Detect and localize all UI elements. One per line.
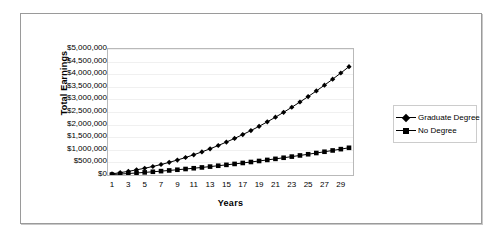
data-point-marker	[224, 139, 229, 144]
data-point-marker	[281, 110, 286, 115]
data-point-marker	[314, 151, 319, 156]
data-point-marker	[142, 170, 147, 175]
data-point-marker	[183, 155, 188, 160]
data-point-marker	[216, 163, 221, 168]
data-point-marker	[224, 163, 229, 168]
data-point-marker	[281, 155, 286, 160]
data-point-marker	[183, 167, 188, 172]
y-tick-label: $3,000,000	[45, 94, 107, 102]
data-point-marker	[330, 148, 335, 153]
series-lines	[108, 49, 353, 175]
y-tick-label: $5,000,000	[45, 44, 107, 52]
data-point-marker	[273, 157, 278, 162]
data-point-marker	[322, 149, 327, 154]
data-point-marker	[265, 119, 270, 124]
data-point-marker	[191, 166, 196, 171]
data-point-marker	[200, 165, 205, 170]
data-point-marker	[191, 152, 196, 157]
data-point-marker	[248, 128, 253, 133]
chart-legend: Graduate DegreeNo Degree	[393, 105, 477, 143]
data-point-marker	[175, 157, 180, 162]
x-axis-title: Years	[107, 198, 354, 208]
data-point-marker	[118, 172, 123, 175]
series-line	[112, 67, 349, 174]
legend-diamond-marker-icon	[396, 112, 416, 123]
data-point-marker	[273, 115, 278, 120]
data-point-marker	[265, 158, 270, 163]
data-point-marker	[207, 146, 212, 151]
data-point-marker	[232, 162, 237, 167]
y-tick-label: $1,000,000	[45, 145, 107, 153]
data-point-marker	[150, 164, 155, 169]
y-tick-label: $0	[45, 170, 107, 178]
data-point-marker	[151, 169, 156, 174]
data-point-marker	[240, 132, 245, 137]
legend-item-label: No Degree	[416, 126, 457, 136]
legend-item-label: Graduate Degree	[416, 113, 480, 123]
data-point-marker	[289, 105, 294, 110]
data-point-marker	[257, 159, 262, 164]
y-tick-label: $500,000	[45, 157, 107, 165]
data-point-marker	[199, 149, 204, 154]
y-tick-label: $3,500,000	[45, 82, 107, 90]
y-tick-label: $4,500,000	[45, 57, 107, 65]
legend-item-2[interactable]: No Degree	[396, 124, 473, 137]
y-axis-tick-labels: $5,000,000$4,500,000$4,000,000$3,500,000…	[45, 44, 107, 172]
data-point-marker	[347, 145, 352, 150]
data-point-marker	[257, 124, 262, 129]
legend-square-marker-icon	[396, 125, 416, 136]
data-point-marker	[240, 161, 245, 166]
series-line	[112, 148, 349, 175]
data-point-marker	[216, 143, 221, 148]
data-point-marker	[339, 147, 344, 152]
plot-area	[107, 48, 354, 176]
data-point-marker	[167, 160, 172, 165]
data-point-marker	[110, 172, 115, 175]
data-point-marker	[158, 162, 163, 167]
legend-item-1[interactable]: Graduate Degree	[396, 111, 473, 124]
data-point-marker	[289, 154, 294, 159]
data-point-marker	[298, 153, 303, 158]
y-tick-label: $2,500,000	[45, 107, 107, 115]
data-point-marker	[249, 160, 254, 165]
data-point-marker	[232, 136, 237, 141]
y-tick-label: $1,500,000	[45, 132, 107, 140]
data-point-marker	[134, 171, 139, 175]
data-point-marker	[175, 167, 180, 172]
chart-figure: Total Earnings $5,000,000$4,500,000$4,00…	[20, 13, 482, 224]
y-tick-label: $2,000,000	[45, 120, 107, 128]
data-point-marker	[126, 171, 131, 175]
data-point-marker	[159, 169, 164, 174]
x-axis-tick-labels: 1357911131517192123252729	[107, 180, 354, 192]
data-point-marker	[167, 168, 172, 173]
data-point-marker	[208, 164, 213, 169]
y-tick-label: $4,000,000	[45, 69, 107, 77]
data-point-marker	[297, 99, 302, 104]
data-point-marker	[142, 166, 147, 171]
x-tick-label: 29	[331, 180, 351, 190]
data-point-marker	[306, 152, 311, 157]
